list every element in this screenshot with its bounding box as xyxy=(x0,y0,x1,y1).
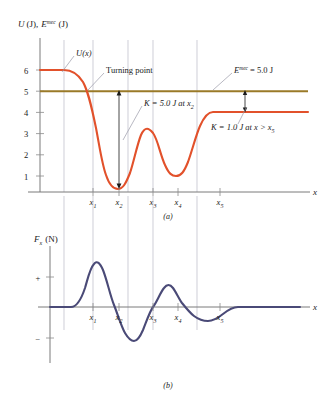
emec-label: Emec= 5.0 J xyxy=(233,65,274,76)
panel-b-gridlines xyxy=(64,196,197,330)
u-curve-annotation: U(x) xyxy=(62,48,92,72)
panel-a-xtick-x3: x3 xyxy=(149,197,157,209)
panel-a-caption: (a) xyxy=(163,212,173,221)
turning-point-label: Turning point xyxy=(106,65,153,75)
panel-a-ytick-5: 5 xyxy=(24,87,28,97)
panel-a-ytick-1: 1 xyxy=(24,172,28,182)
panel-b-y-ticks: + − xyxy=(36,273,54,344)
panel-a: U(J),Emec(J) x 6 5 4 3 2 1 xyxy=(18,19,317,222)
panel-b-ytick-minus: − xyxy=(36,334,41,344)
panel-a-x-ticks: x1 x2 x3 x4 x5 xyxy=(89,188,224,209)
panel-a-ytick-4: 4 xyxy=(24,108,29,118)
panel-b-ytick-plus: + xyxy=(36,273,41,283)
k-after-x5-arrow xyxy=(243,90,247,113)
panel-a-y-axis-title: U(J),Emec(J) xyxy=(18,19,68,30)
panel-a-xtick-x5: x5 xyxy=(216,197,224,209)
panel-b-xtick-x4: x4 xyxy=(174,312,182,324)
panel-b-xtick-x1: x1 xyxy=(89,312,97,324)
panel-a-y-ticks: 6 5 4 3 2 1 xyxy=(24,66,44,182)
panel-a-ytick-6: 6 xyxy=(24,66,28,76)
panel-b-xtick-x2: x2 xyxy=(115,312,123,324)
force-curve xyxy=(50,262,300,341)
figure-svg: U(J),Emec(J) x 6 5 4 3 2 1 xyxy=(0,0,325,411)
panel-a-xtick-x4: x4 xyxy=(174,197,182,209)
k-after-x5-label: K = 1.0 J at x > x5 xyxy=(210,122,275,134)
panel-a-ytick-3: 3 xyxy=(24,129,28,139)
physics-figure: U(J),Emec(J) x 6 5 4 3 2 1 xyxy=(0,0,325,411)
panel-a-ytick-2: 2 xyxy=(24,150,28,160)
k-at-x2-annotation: K = 5.0 J at x2 xyxy=(123,98,194,140)
panel-b-xtick-x3: x3 xyxy=(149,312,157,324)
panel-a-xtick-x2: x2 xyxy=(115,197,123,209)
panel-a-x-axis-label: x xyxy=(312,187,317,197)
emec-annotation: Emec= 5.0 J xyxy=(213,65,274,91)
panel-b-y-axis-title: Fx(N) xyxy=(33,234,58,246)
k-at-x2-label: K = 5.0 J at x2 xyxy=(143,98,194,110)
turning-point-annotation: Turning point xyxy=(88,65,153,90)
u-curve-label: U(x) xyxy=(76,48,92,58)
panel-b: Fx(N) x + − x1 x2 x3 x4 x5 (b) xyxy=(33,196,317,390)
panel-b-caption: (b) xyxy=(163,381,173,390)
k-at-x2-arrow xyxy=(117,90,122,189)
panel-b-x-axis-label: x xyxy=(312,302,317,312)
panel-a-xtick-x1: x1 xyxy=(89,197,97,209)
